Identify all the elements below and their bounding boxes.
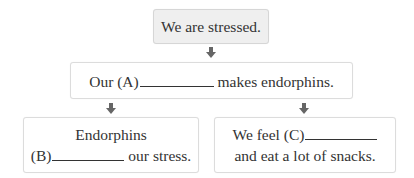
arrow-down-icon: [299, 103, 309, 114]
left-box-line1: Endorphins: [24, 124, 198, 145]
blank-a: [140, 72, 214, 87]
middle-box-after: makes endorphins.: [218, 73, 334, 90]
top-box-text: We are stressed.: [161, 18, 261, 35]
left-box-after: our stress.: [128, 147, 191, 164]
arrow-down-icon: [106, 103, 116, 114]
right-box-line2: and eat a lot of snacks.: [215, 145, 395, 166]
blank-b: [52, 146, 124, 161]
left-box-before: (B): [31, 147, 52, 164]
arrow-down-icon: [206, 47, 216, 58]
middle-box-before: Our (A): [89, 73, 139, 90]
box-our-a-makes-endorphins: Our (A) makes endorphins.: [70, 62, 353, 99]
blank-c: [305, 125, 377, 140]
right-box-before: We feel (C): [233, 126, 305, 143]
box-endorphins-b-our-stress: Endorphins (B) our stress.: [23, 117, 199, 173]
box-we-feel-c: We feel (C) and eat a lot of snacks.: [214, 117, 396, 173]
box-we-are-stressed: We are stressed.: [153, 9, 269, 44]
